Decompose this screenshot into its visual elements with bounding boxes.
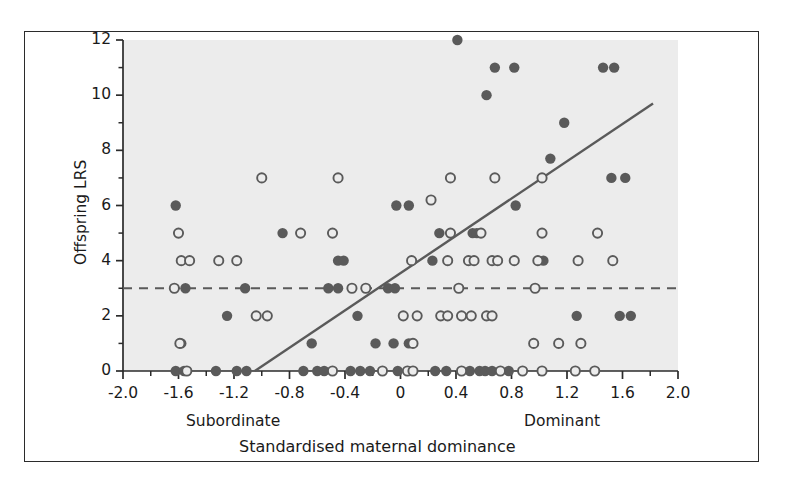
data-point-filled [441,366,451,376]
data-point-open [467,311,476,320]
data-point-open [252,311,261,320]
data-point-open [170,284,179,293]
data-point-filled [232,366,242,376]
data-point-filled [427,255,437,265]
data-point-open [257,173,266,182]
data-point-filled [365,366,375,376]
data-point-filled [626,311,636,321]
x-tick-label: 2.0 [648,384,708,402]
data-point-open [378,366,387,375]
data-point-filled [298,366,308,376]
data-point-open [174,228,183,237]
data-point-open [408,339,417,348]
data-point-open [469,256,478,265]
data-point-filled [277,228,287,238]
data-point-filled [509,62,519,72]
data-point-open [446,173,455,182]
data-point-open [529,339,538,348]
data-point-filled [338,255,348,265]
data-point-open [537,228,546,237]
x-tick-label: 0.8 [482,384,542,402]
data-point-open [554,339,563,348]
data-point-filled [370,338,380,348]
data-point-open [496,366,505,375]
data-point-open [333,173,342,182]
data-point-open [476,228,485,237]
data-point-filled [391,200,401,210]
data-point-open [443,256,452,265]
x-tick-label: 1.2 [537,384,597,402]
data-point-open [537,173,546,182]
data-point-filled [609,62,619,72]
data-point-open [571,366,580,375]
data-point-filled [180,283,190,293]
data-point-open [413,311,422,320]
plot-wrapper: Offspring LRS Standardised maternal domi… [0,0,785,488]
y-tick-label: 6 [69,196,111,214]
x-tick-label: -1.2 [204,384,264,402]
data-point-open [537,366,546,375]
data-point-filled [606,173,616,183]
data-point-filled [171,200,181,210]
data-point-filled [390,283,400,293]
data-point-open [493,256,502,265]
y-tick-label: 0 [69,361,111,379]
data-point-filled [393,366,403,376]
data-point-filled [345,366,355,376]
data-point-filled [615,311,625,321]
data-point-open [576,339,585,348]
data-point-filled [240,283,250,293]
data-point-open [533,256,542,265]
data-point-open [457,366,466,375]
y-tick-label: 4 [69,251,111,269]
data-point-open [510,256,519,265]
x-axis-right-end-label: Dominant [524,412,600,430]
data-point-open [408,366,417,375]
x-tick-label: -1.6 [149,384,209,402]
data-point-open [214,256,223,265]
data-point-open [232,256,241,265]
data-point-open [175,339,184,348]
data-point-filled [352,311,362,321]
data-point-open [296,228,305,237]
data-point-open [446,228,455,237]
figure-container: Offspring LRS Standardised maternal domi… [0,0,785,488]
data-point-filled [355,366,365,376]
x-axis-left-end-label: Subordinate [186,412,280,430]
data-point-open [347,284,356,293]
y-tick-label: 8 [69,140,111,158]
data-point-open [608,256,617,265]
data-point-filled [211,366,221,376]
data-point-open [328,228,337,237]
data-point-open [454,284,463,293]
data-point-filled [323,283,333,293]
data-point-filled [452,35,462,45]
data-point-open [593,228,602,237]
data-point-open [518,366,527,375]
data-point-open [185,256,194,265]
data-point-open [487,311,496,320]
data-point-filled [598,62,608,72]
data-point-open [182,366,191,375]
data-point-filled [434,228,444,238]
data-point-filled [559,118,569,128]
data-point-filled [490,62,500,72]
data-point-open [443,311,452,320]
data-point-open [263,311,272,320]
data-point-open [426,195,435,204]
x-tick-label: 0 [371,384,431,402]
x-tick-label: 0.4 [426,384,486,402]
data-point-open [361,284,370,293]
data-point-filled [307,338,317,348]
data-point-open [574,256,583,265]
data-point-filled [333,283,343,293]
x-tick-label: -2.0 [93,384,153,402]
data-point-filled [510,200,520,210]
data-point-filled [241,366,251,376]
data-point-open [590,366,599,375]
x-tick-label: -0.8 [260,384,320,402]
x-tick-label: 1.6 [593,384,653,402]
data-point-open [457,311,466,320]
x-tick-label: -0.4 [315,384,375,402]
y-tick-label: 10 [69,85,111,103]
